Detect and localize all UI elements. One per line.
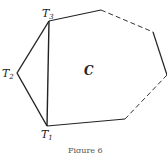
figure-caption: Figure 6: [68, 146, 103, 153]
polygon-solid-edges: [47, 10, 167, 126]
vertex-label-t1: T1: [41, 128, 53, 142]
vertex-label-t3: T3: [42, 7, 54, 21]
vertex-label-t2: T2: [2, 67, 14, 81]
polygon-dashed-edges: [101, 10, 167, 119]
region-label-c: C: [84, 64, 94, 78]
triangle-edges: [17, 21, 49, 126]
polygon-figure: T3 T2 T1 C Figure 6: [0, 0, 167, 153]
